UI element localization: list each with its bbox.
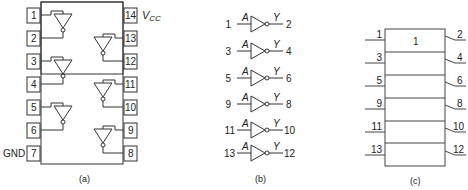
pin-label: 6 <box>31 125 37 136</box>
output-pin: 2 <box>286 19 292 30</box>
vcc-label: VCC <box>142 9 161 23</box>
output-pin: 4 <box>457 52 463 63</box>
input-pin: 13 <box>224 148 236 159</box>
pin-label: 5 <box>31 102 37 113</box>
inverter-gate-1 <box>41 11 72 38</box>
output-label-y: Y <box>273 92 281 103</box>
panel-b-labels: 1 A Y 2 3 A Y 4 5 A Y 6 9 A Y 8 11 A Y 1… <box>224 12 296 184</box>
output-pin: 6 <box>286 73 292 84</box>
output-pin: 12 <box>284 148 296 159</box>
output-label-y: Y <box>273 141 281 152</box>
output-label-y: Y <box>273 12 281 23</box>
input-pin: 9 <box>225 99 231 110</box>
panel-b-logic-symbols <box>237 16 283 161</box>
output-pin: 6 <box>457 75 463 86</box>
input-pin: 3 <box>225 46 231 57</box>
output-pin: 10 <box>453 121 465 132</box>
pin-label: 4 <box>31 79 37 90</box>
input-label-a: A <box>241 39 249 50</box>
input-pin: 9 <box>376 98 382 109</box>
caption-c: (c) <box>410 176 421 186</box>
input-pin: 5 <box>225 73 231 84</box>
pin-label: 9 <box>128 125 134 136</box>
pin-label: 11 <box>125 79 136 90</box>
qualifier-symbol: 1 <box>413 36 419 47</box>
pin-label: 12 <box>125 56 137 67</box>
inverter-gate-6 <box>94 34 123 61</box>
hex-inverter-figure: 1 2 3 4 5 6 7 14 13 12 11 10 9 8 VCC GND… <box>0 0 468 190</box>
input-pin: 13 <box>371 144 383 155</box>
input-label-a: A <box>241 118 249 129</box>
pin-label: 3 <box>31 56 37 67</box>
input-pin: 3 <box>376 52 382 63</box>
input-label-a: A <box>241 12 249 23</box>
input-label-a: A <box>241 92 249 103</box>
input-pin: 11 <box>372 121 383 132</box>
panel-a-pin-diagram <box>27 2 137 164</box>
pin-label: 10 <box>125 102 137 113</box>
output-pin: 10 <box>284 125 296 136</box>
output-pin: 8 <box>457 98 463 109</box>
pin-label: 2 <box>31 33 37 44</box>
input-pin: 1 <box>225 19 231 30</box>
caption-b: (b) <box>255 174 266 184</box>
caption-a: (a) <box>79 174 90 184</box>
inverter-gate-5 <box>94 80 123 107</box>
gnd-label: GND <box>3 148 25 159</box>
input-pin: 5 <box>376 75 382 86</box>
output-label-y: Y <box>273 118 281 129</box>
pin-label: 14 <box>125 10 137 21</box>
inverter-gate-2 <box>41 57 72 84</box>
inverter-gate-3 <box>41 103 72 130</box>
output-pin: 12 <box>453 144 465 155</box>
pin-label: 1 <box>31 10 37 21</box>
input-pin: 11 <box>225 125 236 136</box>
output-pin: 4 <box>286 46 292 57</box>
output-label-y: Y <box>273 66 281 77</box>
input-label-a: A <box>241 66 249 77</box>
pin-label: 7 <box>31 148 37 159</box>
pin-label: 8 <box>128 148 134 159</box>
output-pin: 8 <box>286 99 292 110</box>
output-label-y: Y <box>273 39 281 50</box>
inverter-gate-4 <box>94 126 123 153</box>
output-pin: 2 <box>457 29 463 40</box>
input-pin: 1 <box>376 29 382 40</box>
input-label-a: A <box>241 141 249 152</box>
pin-label: 13 <box>125 33 137 44</box>
